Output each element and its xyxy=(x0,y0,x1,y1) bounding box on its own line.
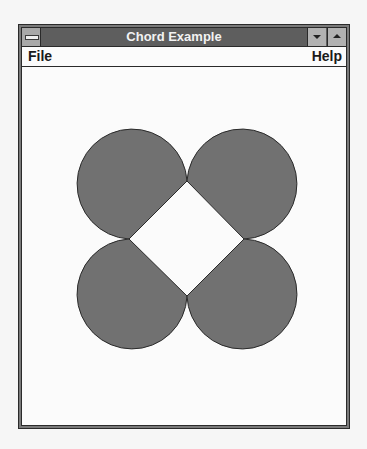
chord-example-window: Chord Example File Help xyxy=(18,24,350,429)
chord-top-left xyxy=(77,129,187,239)
chord-canvas xyxy=(22,67,348,427)
system-menu-icon xyxy=(25,35,39,40)
chord-bottom-left xyxy=(77,239,187,349)
menu-file[interactable]: File xyxy=(28,47,52,66)
chord-top-right xyxy=(187,129,297,239)
maximize-button[interactable] xyxy=(327,28,346,46)
menu-help[interactable]: Help xyxy=(312,47,342,66)
minimize-arrow-icon xyxy=(313,35,321,39)
window-title: Chord Example xyxy=(42,28,306,46)
chord-bottom-right xyxy=(187,239,297,349)
title-bar[interactable]: Chord Example xyxy=(22,28,346,47)
minimize-button[interactable] xyxy=(307,28,326,46)
window-frame: Chord Example File Help xyxy=(21,27,347,426)
maximize-arrow-icon xyxy=(333,34,341,38)
system-menu-button[interactable] xyxy=(22,28,41,46)
menu-bar: File Help xyxy=(22,47,346,67)
client-area xyxy=(22,67,346,425)
